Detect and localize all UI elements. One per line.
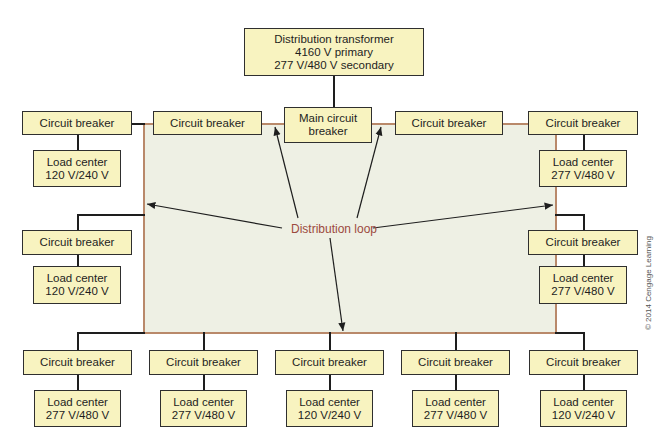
load-center-bottom-5: Load center 120 V/240 V — [540, 390, 627, 427]
copyright-credit: © 2014 Cengage Learning — [644, 236, 653, 330]
breaker-label: Circuit breaker — [412, 117, 487, 130]
breaker-label: Circuit breaker — [40, 236, 115, 249]
breaker-label: Circuit breaker — [418, 356, 493, 369]
circuit-breaker-mid-left: Circuit breaker — [22, 230, 132, 255]
circuit-breaker-bottom-3: Circuit breaker — [275, 350, 384, 375]
load-center-voltage: 277 V/480 V — [551, 169, 614, 182]
load-center-label: Load center — [47, 156, 108, 169]
circuit-breaker-bottom-5: Circuit breaker — [529, 350, 638, 375]
distribution-loop-label: Distribution loop — [291, 222, 377, 236]
transformer-primary: 4160 V primary — [295, 46, 373, 59]
circuit-breaker-top-4: Circuit breaker — [528, 111, 638, 135]
load-center-voltage: 120 V/240 V — [45, 285, 108, 298]
circuit-breaker-top-2: Circuit breaker — [153, 111, 262, 135]
load-center-bottom-2: Load center 277 V/480 V — [160, 390, 247, 427]
load-center-label: Load center — [47, 272, 108, 285]
load-center-label: Load center — [425, 396, 486, 409]
load-center-label: Load center — [299, 396, 360, 409]
main-breaker-line1: Main circuit — [299, 112, 357, 125]
load-center-voltage: 277 V/480 V — [172, 409, 235, 422]
breaker-label: Circuit breaker — [166, 356, 241, 369]
load-center-label: Load center — [47, 396, 108, 409]
breaker-label: Circuit breaker — [292, 356, 367, 369]
load-center-label: Load center — [173, 396, 234, 409]
load-center-voltage: 120 V/240 V — [298, 409, 361, 422]
transformer-title: Distribution transformer — [274, 33, 394, 46]
load-center-mid-left: Load center 120 V/240 V — [33, 266, 121, 304]
load-center-label: Load center — [553, 272, 614, 285]
load-center-voltage: 277 V/480 V — [46, 409, 109, 422]
main-breaker-line2: breaker — [309, 125, 348, 138]
distribution-transformer: Distribution transformer 4160 V primary … — [244, 28, 424, 76]
circuit-breaker-bottom-1: Circuit breaker — [23, 350, 132, 375]
load-center-bottom-1: Load center 277 V/480 V — [34, 390, 121, 427]
load-center-voltage: 277 V/480 V — [551, 285, 614, 298]
circuit-breaker-bottom-2: Circuit breaker — [149, 350, 258, 375]
load-center-label: Load center — [553, 156, 614, 169]
circuit-breaker-top-3: Circuit breaker — [395, 111, 503, 135]
load-center-voltage: 277 V/480 V — [424, 409, 487, 422]
breaker-label: Circuit breaker — [546, 356, 621, 369]
transformer-secondary: 277 V/480 V secondary — [274, 59, 394, 72]
circuit-breaker-bottom-4: Circuit breaker — [401, 350, 510, 375]
load-center-label: Load center — [553, 396, 614, 409]
main-circuit-breaker: Main circuit breaker — [284, 107, 372, 143]
load-center-voltage: 120 V/240 V — [45, 169, 108, 182]
breaker-label: Circuit breaker — [546, 117, 621, 130]
breaker-label: Circuit breaker — [170, 117, 245, 130]
load-center-bottom-3: Load center 120 V/240 V — [286, 390, 373, 427]
load-center-mid-right: Load center 277 V/480 V — [539, 266, 627, 304]
load-center-top-right: Load center 277 V/480 V — [539, 150, 627, 187]
circuit-breaker-top-1: Circuit breaker — [22, 111, 132, 135]
load-center-voltage: 120 V/240 V — [552, 409, 615, 422]
circuit-breaker-mid-right: Circuit breaker — [528, 230, 638, 255]
breaker-label: Circuit breaker — [40, 117, 115, 130]
load-center-bottom-4: Load center 277 V/480 V — [412, 390, 499, 427]
breaker-label: Circuit breaker — [546, 236, 621, 249]
load-center-top-left: Load center 120 V/240 V — [33, 150, 121, 187]
breaker-label: Circuit breaker — [40, 356, 115, 369]
